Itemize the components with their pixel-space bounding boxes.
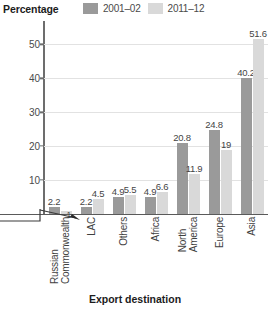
x-axis-title: Export destination — [0, 293, 270, 305]
x-axis-category-line: Others — [119, 217, 130, 246]
bar[interactable]: 51.6 — [253, 39, 264, 214]
legend-swatch-2011-12 — [148, 3, 163, 14]
bar-value-label: 4.9 — [112, 186, 124, 197]
y-axis-tick-label: 40 — [29, 73, 40, 84]
bar[interactable]: 4.9 — [113, 197, 124, 214]
bar[interactable]: 5.5 — [125, 195, 136, 214]
bar-group: 2.21 — [44, 24, 76, 214]
legend-swatch-2001-02 — [83, 3, 98, 14]
y-axis-tick-label: 30 — [29, 107, 40, 118]
x-axis-category-label: Africa — [151, 217, 162, 241]
bar-value-label: 20.8 — [173, 132, 190, 143]
bar-group: 20.811.9 — [172, 24, 204, 214]
plot-area: 1020304050 2.212.24.54.95.54.96.620.811.… — [44, 24, 268, 214]
bar-value-label: 6.6 — [156, 181, 168, 192]
annotation-arrow-icon — [0, 206, 110, 228]
bar[interactable]: 19 — [221, 150, 232, 214]
bar-value-label: 2.2 — [80, 196, 92, 207]
bar-value-label: 51.6 — [249, 28, 266, 39]
x-axis-category-line: North — [178, 217, 189, 252]
bar-value-label: 4.5 — [92, 188, 104, 199]
legend-item-2001-02: 2001–02 — [83, 3, 141, 14]
bar[interactable]: 6.6 — [157, 192, 168, 214]
bar[interactable]: 24.8 — [209, 130, 220, 214]
bar-group: 24.819 — [204, 24, 236, 214]
bar-value-label: 19 — [221, 139, 231, 150]
x-axis-category-line: Europe — [215, 217, 226, 248]
legend-label-2001-02: 2001–02 — [103, 3, 141, 14]
bar-group: 40.251.6 — [236, 24, 268, 214]
bar-value-label: 24.8 — [205, 119, 222, 130]
y-axis-tick-label: 20 — [29, 141, 40, 152]
x-axis-category-line: Africa — [151, 217, 162, 241]
legend-item-2011-12: 2011–12 — [148, 3, 205, 14]
x-axis-category-line: America — [188, 217, 199, 252]
y-axis-tick-label: 10 — [29, 175, 40, 186]
bar[interactable]: 40.2 — [241, 78, 252, 214]
bar-group: 2.24.5 — [76, 24, 108, 214]
bar-value-label: 2.2 — [48, 196, 60, 207]
bar[interactable]: 4.9 — [145, 197, 156, 214]
bar-series-layer: 2.212.24.54.95.54.96.620.811.924.81940.2… — [44, 24, 268, 214]
x-axis-category-label: Asia — [247, 217, 258, 236]
x-axis-category-line: Asia — [247, 217, 258, 236]
bar[interactable]: 20.8 — [177, 143, 188, 214]
chart-legend: 2001–02 2011–12 — [83, 3, 204, 14]
x-axis-category-label: NorthAmerica — [178, 217, 199, 252]
bar[interactable]: 11.9 — [189, 174, 200, 214]
bar-value-label: 5.5 — [124, 184, 136, 195]
x-axis-category-label: Europe — [215, 217, 226, 248]
y-axis-title: Percentage — [3, 3, 59, 15]
bar-chart: Percentage 2001–02 2011–12 1020304050 2.… — [0, 0, 270, 318]
x-axis-category-label: Others — [119, 217, 130, 246]
bar-value-label: 4.9 — [144, 186, 156, 197]
bar-group: 4.95.5 — [108, 24, 140, 214]
y-axis-tick-label: 50 — [29, 39, 40, 50]
bar-value-label: 11.9 — [186, 163, 203, 174]
bar-group: 4.96.6 — [140, 24, 172, 214]
legend-label-2011-12: 2011–12 — [168, 3, 205, 14]
